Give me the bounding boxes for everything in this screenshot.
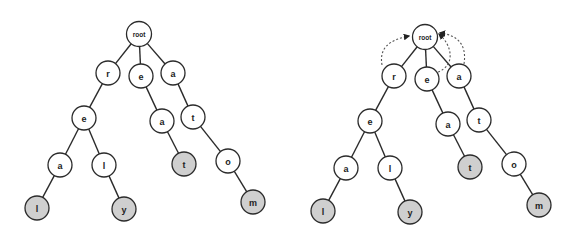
- edge-e1-ea: [146, 87, 157, 110]
- node-label: r: [392, 72, 396, 82]
- terminal-node-atom: m: [241, 190, 265, 214]
- edge-re-rel: [89, 129, 100, 154]
- edge-ato-atom: [520, 174, 533, 195]
- edge-re-rea: [352, 132, 365, 158]
- terminal-node-real: l: [25, 196, 49, 220]
- node-label: e: [138, 72, 143, 82]
- trie-node-root: root: [413, 25, 438, 50]
- edge-re-rea: [66, 129, 79, 155]
- trie-node-ea: a: [436, 112, 460, 136]
- node-label: root: [419, 34, 432, 41]
- trie-diagram: rootreaeataltolymrootreaeataltolym: [0, 0, 571, 238]
- trie-node-rel: l: [378, 156, 402, 180]
- edge-root-r: [402, 47, 418, 67]
- edge-r-re: [376, 87, 389, 111]
- trie-with-links: rootreaeataltolym: [311, 25, 551, 225]
- node-label: t: [478, 116, 481, 126]
- node-label: l: [103, 161, 106, 171]
- node-label: e: [367, 117, 372, 127]
- terminal-node-rely: y: [398, 200, 422, 224]
- edge-root-a1: [147, 43, 165, 64]
- edge-rea-real: [43, 176, 55, 198]
- trie-node-root: root: [127, 22, 152, 47]
- edge-root-r: [116, 44, 132, 64]
- node-label: m: [249, 198, 257, 208]
- trie-node-r: r: [382, 64, 406, 88]
- node-label: l: [36, 204, 39, 214]
- edge-root-e1: [140, 47, 141, 65]
- edge-rel-rely: [395, 179, 405, 201]
- edge-e1-ea: [432, 90, 443, 113]
- edge-ea-eat: [454, 135, 465, 157]
- trie-plain: rootreaeataltolym: [25, 22, 265, 222]
- terminal-node-atom: m: [527, 193, 551, 217]
- edge-root-e1: [426, 50, 427, 68]
- edge-r-re: [90, 84, 103, 108]
- node-label: y: [121, 205, 126, 215]
- node-label: t: [469, 163, 472, 173]
- trie-node-re: e: [72, 106, 96, 130]
- trie-node-a1: a: [161, 61, 185, 85]
- trie-node-ato: o: [216, 149, 240, 173]
- edge-rea-real: [329, 179, 341, 201]
- node-label: e: [81, 114, 86, 124]
- node-label: y: [407, 208, 412, 218]
- node-label: t: [192, 113, 195, 123]
- node-label: r: [106, 69, 110, 79]
- trie-node-rea: a: [334, 156, 358, 180]
- edge-ea-eat: [168, 132, 179, 154]
- node-label: root: [133, 31, 146, 38]
- edge-a1-at: [464, 87, 474, 109]
- node-label: o: [225, 157, 231, 167]
- edge-rel-rely: [109, 176, 119, 198]
- trie-node-ato: o: [502, 152, 526, 176]
- terminal-node-eat: t: [458, 155, 482, 179]
- edge-a1-at: [178, 84, 188, 106]
- failure-link-r-to-root: [381, 36, 409, 65]
- trie-node-rel: l: [92, 153, 116, 177]
- trie-node-re: e: [358, 109, 382, 133]
- terminal-node-rely: y: [112, 197, 136, 221]
- terminal-node-real: l: [311, 199, 335, 223]
- trie-node-e1: e: [415, 67, 439, 91]
- trie-node-rea: a: [48, 153, 72, 177]
- trie-node-a1: a: [447, 64, 471, 88]
- trie-node-at: t: [467, 108, 491, 132]
- node-label: l: [322, 207, 325, 217]
- trie-node-e1: e: [129, 64, 153, 88]
- edge-at-ato: [201, 126, 221, 151]
- node-label: l: [389, 164, 392, 174]
- node-label: t: [183, 160, 186, 170]
- node-label: e: [424, 75, 429, 85]
- trie-node-ea: a: [150, 109, 174, 133]
- edge-re-rel: [375, 132, 386, 157]
- node-label: m: [535, 201, 543, 211]
- trie-node-r: r: [96, 61, 120, 85]
- edge-at-ato: [487, 129, 507, 154]
- edge-ato-atom: [234, 171, 247, 192]
- trie-node-at: t: [181, 105, 205, 129]
- terminal-node-eat: t: [172, 152, 196, 176]
- node-label: o: [511, 160, 517, 170]
